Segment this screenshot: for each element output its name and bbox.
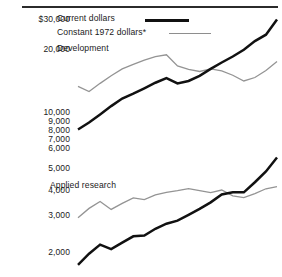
line-development-current	[78, 20, 277, 130]
plot-lines	[0, 0, 282, 277]
line-applied-constant	[78, 187, 277, 218]
chart-container: $30,000 20,000 10,000 9,000 8,000 7,000 …	[0, 0, 282, 277]
line-development-constant	[78, 55, 277, 92]
line-applied-current	[78, 157, 277, 265]
